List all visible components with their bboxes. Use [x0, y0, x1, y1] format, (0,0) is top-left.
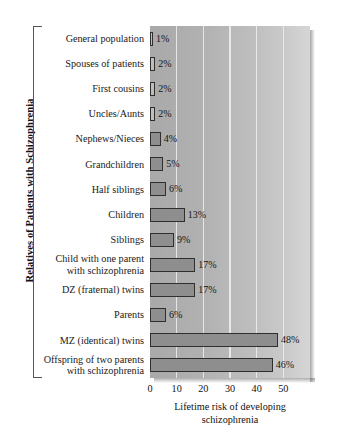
category-label: Uncles/Aunts — [89, 108, 144, 120]
bar-value-label: 4% — [164, 134, 177, 144]
category-label-line: Child with one parent — [55, 253, 144, 265]
category-label-line: with schizophrenia — [44, 365, 144, 377]
bar-value-label: 13% — [188, 210, 206, 220]
bar — [150, 57, 155, 71]
gridline-10 — [176, 26, 178, 378]
bar-value-label: 1% — [156, 34, 169, 44]
bar-value-label: 17% — [198, 260, 216, 270]
gridline-30 — [229, 26, 231, 378]
bar — [150, 107, 155, 121]
category-label: DZ (fraternal) twins — [62, 284, 144, 296]
category-label-line: Children — [108, 209, 144, 221]
category-label-line: First cousins — [92, 83, 144, 95]
category-label: Parents — [114, 309, 144, 321]
category-label-line: Half siblings — [92, 184, 144, 196]
bar-value-label: 2% — [158, 109, 171, 119]
category-label: Offspring of two parentswith schizophren… — [44, 354, 144, 377]
category-label: Children — [108, 209, 144, 221]
x-tick-label-40: 40 — [252, 383, 262, 394]
bar-value-label: 6% — [169, 310, 182, 320]
x-axis-title-line: Lifetime risk of developing — [150, 400, 310, 413]
category-label-line: Siblings — [111, 234, 144, 246]
category-label: Siblings — [111, 234, 144, 246]
category-label: First cousins — [92, 83, 144, 95]
plot-shadow-right — [310, 30, 315, 382]
category-label-line: Grandchildren — [85, 159, 144, 171]
bar — [150, 132, 161, 146]
category-label-line: Uncles/Aunts — [89, 108, 144, 120]
gridline-40 — [256, 26, 258, 378]
x-tick-label-0: 0 — [147, 383, 152, 394]
category-label: Child with one parentwith schizophrenia — [55, 253, 144, 276]
bar — [150, 82, 155, 96]
bar — [150, 157, 163, 171]
x-axis-title-line: schizophrenia — [150, 413, 310, 426]
bar — [150, 208, 185, 222]
x-axis-title: Lifetime risk of developingschizophrenia — [150, 400, 310, 426]
category-label-line: DZ (fraternal) twins — [62, 284, 144, 296]
category-label: Spouses of patients — [65, 58, 144, 70]
gridline-20 — [203, 26, 205, 378]
bar — [150, 333, 278, 347]
bar — [150, 182, 166, 196]
x-tick-label-50: 50 — [278, 383, 288, 394]
bar-value-label: 5% — [166, 159, 179, 169]
category-label: Half siblings — [92, 184, 144, 196]
schizophrenia-risk-bar-chart: Relatives of Patients with Schizophrenia… — [0, 0, 360, 442]
category-label-line: Nephews/Nieces — [76, 133, 144, 145]
bar — [150, 258, 195, 272]
bar-value-label: 48% — [281, 335, 299, 345]
bar-value-label: 9% — [177, 235, 190, 245]
bar-value-label: 2% — [158, 59, 171, 69]
bar — [150, 308, 166, 322]
bar-value-label: 2% — [158, 84, 171, 94]
category-label-line: Offspring of two parents — [44, 354, 144, 366]
x-tick-label-30: 30 — [225, 383, 235, 394]
category-label-line: General population — [66, 33, 144, 45]
category-label-line: Spouses of patients — [65, 58, 144, 70]
category-label: Nephews/Nieces — [76, 133, 144, 145]
category-labels: General populationSpouses of patientsFir… — [0, 0, 147, 442]
x-tick-label-10: 10 — [172, 383, 182, 394]
gridline-50 — [283, 26, 285, 378]
x-tick-label-20: 20 — [198, 383, 208, 394]
category-label: Grandchildren — [85, 159, 144, 171]
bar-value-label: 46% — [276, 360, 294, 370]
category-label: General population — [66, 33, 144, 45]
bar-value-label: 17% — [198, 285, 216, 295]
bar-value-label: 6% — [169, 184, 182, 194]
bar — [150, 32, 153, 46]
bar — [150, 233, 174, 247]
bar — [150, 283, 195, 297]
category-label-line: MZ (identical) twins — [60, 335, 144, 347]
category-label-line: with schizophrenia — [55, 265, 144, 277]
x-axis-tick-labels: 01020304050 — [0, 383, 360, 397]
category-label: MZ (identical) twins — [60, 335, 144, 347]
category-label-line: Parents — [114, 309, 144, 321]
bar — [150, 358, 273, 372]
